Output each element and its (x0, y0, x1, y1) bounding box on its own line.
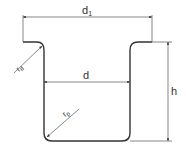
cup-dimension-diagram: d1 d h rd rp (0, 0, 186, 155)
cup-profile (23, 42, 152, 141)
h-label: h (171, 85, 177, 97)
d-label: d (83, 69, 89, 81)
d1-label: d1 (82, 4, 92, 17)
diagram-canvas: d1 d h rd rp (0, 0, 186, 155)
